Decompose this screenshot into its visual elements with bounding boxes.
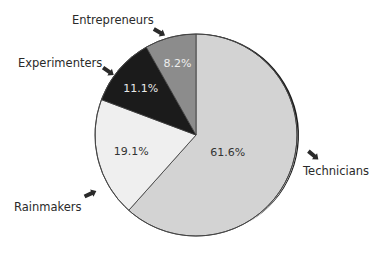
callout-label-entrepreneurs: Entrepreneurs [72,13,154,27]
callout-label-technicians: Technicians [302,164,369,178]
data-label-technicians: 61.6% [210,146,245,159]
arrow-icon [152,26,167,39]
data-label-rainmakers: 19.1% [114,145,149,158]
arrow-icon [83,187,98,200]
data-label-experimenters: 11.1% [123,82,158,95]
callout-label-experimenters: Experimenters [18,56,102,70]
arrow-icon [306,148,321,162]
data-label-entrepreneurs: 8.2% [163,57,191,70]
pie-chart: 61.6%19.1%11.1%8.2% TechniciansRainmaker… [0,0,380,253]
callout-label-rainmakers: Rainmakers [14,200,82,214]
